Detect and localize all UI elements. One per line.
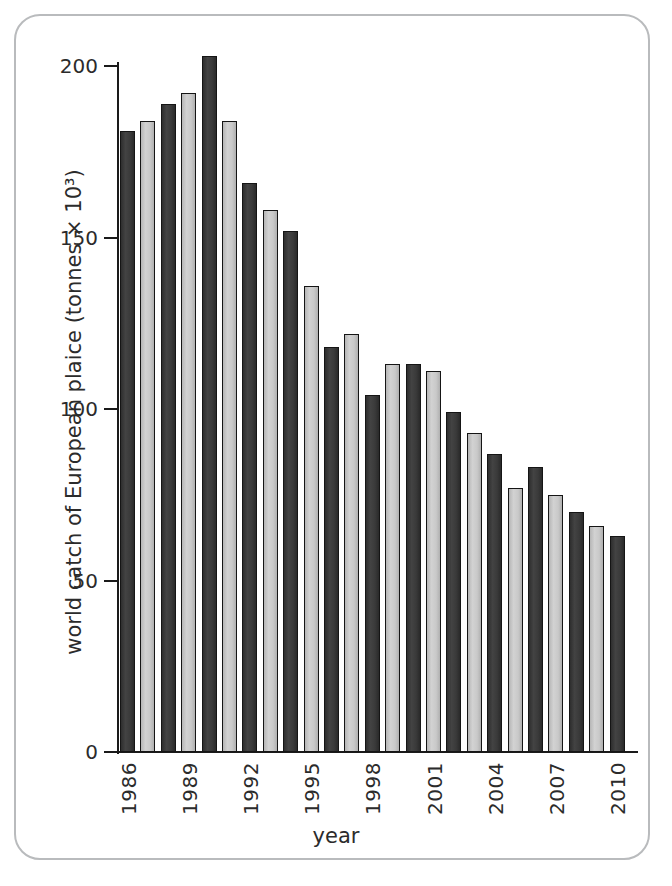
bar <box>120 131 135 752</box>
x-axis-tick-label: 1992 <box>239 762 263 815</box>
bar <box>385 364 400 752</box>
bar <box>406 364 421 752</box>
y-axis-title-holder: world catch of European plaice (tonnes ×… <box>36 0 62 886</box>
bar <box>508 488 523 752</box>
bar <box>222 121 237 752</box>
x-axis-tick-label: 1986 <box>117 762 141 815</box>
bar <box>140 121 155 752</box>
x-axis-tick-label: 1998 <box>361 762 385 815</box>
bar <box>548 495 563 752</box>
bar <box>365 395 380 752</box>
x-axis-tick-label: 2007 <box>545 762 569 815</box>
x-axis-tick-label: 2010 <box>606 762 630 815</box>
bar <box>242 183 257 752</box>
bar <box>344 334 359 752</box>
bar <box>610 536 625 752</box>
bar <box>446 412 461 752</box>
plot-area <box>0 0 672 886</box>
bar-chart: 050100150200 198619891992199519982001200… <box>0 0 672 886</box>
bar <box>467 433 482 752</box>
bar <box>304 286 319 752</box>
bar <box>569 512 584 752</box>
x-axis-tick-label: 2004 <box>484 762 508 815</box>
x-axis-title: year <box>0 824 672 848</box>
bar <box>324 347 339 752</box>
bar <box>283 231 298 752</box>
bar <box>589 526 604 752</box>
y-axis-title: world catch of European plaice (tonnes ×… <box>62 152 86 672</box>
bar <box>202 56 217 752</box>
x-axis-tick-label: 2001 <box>423 762 447 815</box>
bar <box>426 371 441 752</box>
bar <box>487 454 502 752</box>
x-axis-tick-label: 1995 <box>300 762 324 815</box>
bar <box>528 467 543 752</box>
bar <box>161 104 176 752</box>
bar <box>181 93 196 752</box>
bar <box>263 210 278 752</box>
x-axis-tick-label: 1989 <box>178 762 202 815</box>
